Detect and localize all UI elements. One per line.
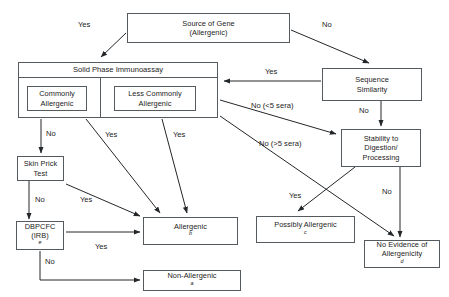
stability-line1: Stability to <box>362 134 399 143</box>
edge-label-skinprick-yes: Yes <box>80 196 92 205</box>
edge-commonly-yes-allergenic <box>86 119 160 213</box>
node-less-commonly-allergenic[interactable]: Less Commonly Allergenic <box>114 86 196 111</box>
node-stability-to-digestion[interactable]: Stability to Digestion/ Processing <box>341 129 421 167</box>
node-sequence-similarity[interactable]: Sequence Similarity <box>322 68 422 101</box>
edge-dbpcfc-no-nonallergenic <box>40 251 140 280</box>
source-of-gene-line2: (Allergenic) <box>182 28 234 37</box>
dbpcfc-superscript: e <box>38 239 41 245</box>
edge-label-sequence-to-stability: No <box>359 107 369 116</box>
node-source-of-gene[interactable]: Source of Gene (Allergenic) <box>127 13 290 43</box>
node-skin-prick-test[interactable]: Skin Prick Test <box>17 156 64 181</box>
node-dbpcfc[interactable]: DBPCFC (IRB)e <box>16 221 64 250</box>
node-non-allergenic[interactable]: Non-Allergenica <box>143 270 241 291</box>
dbpcfc-line1: DBPCFC <box>25 222 56 231</box>
edge-label-dbpcfc-yes: Yes <box>95 243 107 252</box>
commonly-allergenic-line2: Allergenic <box>39 99 75 108</box>
edge-label-stability-yes: Yes <box>289 192 301 201</box>
allergenic-label-wrap: Allergenicb <box>174 222 207 240</box>
edge-label-spi-no-lt5: No (<5 sera) <box>251 102 293 111</box>
edge-label-stability-no: No <box>382 188 392 197</box>
node-commonly-allergenic[interactable]: Commonly Allergenic <box>27 86 87 111</box>
stability-line2: Digestion/ <box>362 143 399 152</box>
solid-phase-divider <box>100 78 101 118</box>
no-evidence-line2-wrap: Allergenicityd <box>377 249 428 267</box>
non-allergenic-superscript: a <box>190 279 193 285</box>
node-no-evidence-of-allergenicity[interactable]: No Evidence of Allergenicityd <box>364 240 440 268</box>
commonly-allergenic-line1: Commonly <box>39 89 75 98</box>
edge-stability-yes-possibly <box>298 167 355 211</box>
allergenic-superscript: b <box>189 230 192 236</box>
no-evidence-line1: No Evidence of <box>377 240 428 249</box>
sequence-similarity-line2: Similarity <box>355 85 389 94</box>
edge-label-sequence-to-spi: Yes <box>265 68 277 77</box>
stability-line3: Processing <box>362 153 399 162</box>
possibly-allergenic-superscript: c <box>304 228 307 234</box>
edge-source-to-sequence <box>291 30 369 63</box>
less-commonly-allergenic-line1: Less Commonly <box>128 89 182 98</box>
source-of-gene-line1: Source of Gene <box>182 19 234 28</box>
solid-phase-header-label: Solid Phase Immunoassay <box>73 65 163 74</box>
allergenicity-flowchart: Source of Gene (Allergenic) Solid Phase … <box>0 0 449 297</box>
edge-skinprick-yes-allergenic <box>66 184 140 216</box>
sequence-similarity-line1: Sequence <box>355 75 389 84</box>
edge-label-dbpcfc-no: No <box>45 258 55 267</box>
dbpcfc-line2-wrap: (IRB)e <box>25 231 56 249</box>
possibly-allergenic-label-wrap: Possibly Allergenicc <box>274 220 337 238</box>
non-allergenic-label-wrap: Non-Allergenica <box>167 271 216 289</box>
node-possibly-allergenic[interactable]: Possibly Allergenicc <box>256 216 355 243</box>
no-evidence-superscript: d <box>400 257 403 263</box>
edge-label-commonly-no: No <box>46 130 56 139</box>
skin-prick-line1: Skin Prick <box>24 159 57 168</box>
node-allergenic[interactable]: Allergenicb <box>143 217 238 245</box>
solid-phase-immunoassay-header: Solid Phase Immunoassay <box>18 62 218 78</box>
edge-label-skinprick-no: No <box>35 196 45 205</box>
edge-label-commonly-yes: Yes <box>105 131 117 140</box>
less-commonly-allergenic-line2: Allergenic <box>128 99 182 108</box>
edge-label-source-to-sequence: No <box>322 21 332 30</box>
edge-label-source-to-spi: Yes <box>78 21 90 30</box>
edge-label-spi-no-gt5: No (>5 sera) <box>259 140 301 149</box>
skin-prick-line2: Test <box>24 169 57 178</box>
edge-source-to-spi <box>101 33 126 57</box>
edge-label-lesscommonly-yes: Yes <box>173 131 185 140</box>
